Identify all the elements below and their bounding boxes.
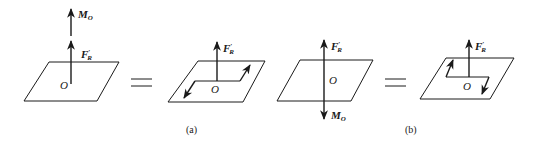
couple-force-arrow-right — [482, 77, 489, 94]
force-label: F′R — [330, 40, 342, 54]
couple-force-arrow-left — [446, 60, 453, 77]
panel-a-right: F′R O — [168, 42, 265, 102]
moment-label: MO — [330, 109, 346, 123]
caption-b: (b) — [405, 124, 417, 136]
panel-b-right: F′R O — [420, 40, 514, 99]
statics-force-couple-diagram: MO F′R O F′R O (a) F′R MO O F′ — [0, 0, 536, 143]
origin-label: O — [329, 74, 337, 86]
caption-a: (a) — [186, 124, 197, 136]
force-label: F′R — [222, 42, 234, 56]
plane-parallelogram — [277, 60, 373, 101]
couple-force-arrow-left — [184, 81, 195, 98]
panel-a-left: MO F′R O — [24, 8, 119, 101]
origin-label: O — [60, 79, 68, 91]
couple-force-arrow-right — [240, 65, 250, 81]
force-label: F′R — [474, 40, 486, 54]
panel-b-left: F′R MO O — [277, 40, 373, 123]
moment-label: MO — [77, 8, 93, 22]
equals-sign — [131, 79, 152, 86]
force-label: F′R — [80, 48, 92, 62]
origin-label: O — [463, 80, 471, 92]
equals-sign — [385, 79, 406, 86]
origin-label: O — [211, 83, 219, 95]
plane-parallelogram — [420, 58, 514, 99]
